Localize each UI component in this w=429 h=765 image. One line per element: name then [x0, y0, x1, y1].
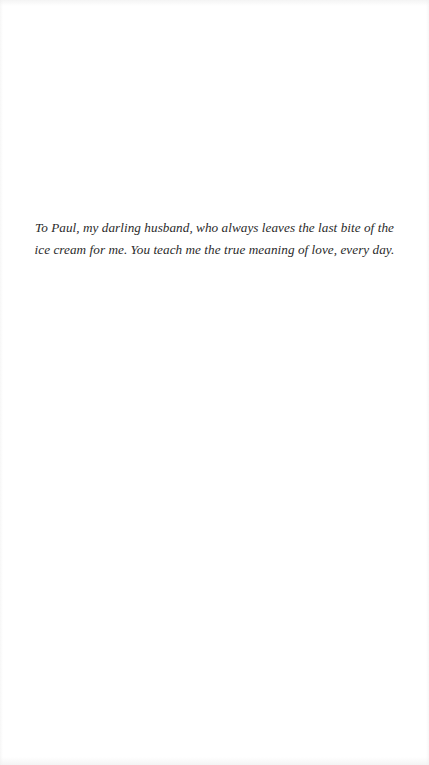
dedication-text: To Paul, my darling husband, who always … — [0, 217, 429, 261]
scan-edge-top — [0, 0, 429, 6]
scan-edge-bottom — [0, 757, 429, 765]
dedication-line-1: To Paul, my darling husband, who always … — [0, 217, 429, 239]
book-page: To Paul, my darling husband, who always … — [0, 0, 429, 765]
scan-edge-left — [0, 0, 3, 765]
dedication-line-2: ice cream for me. You teach me the true … — [0, 239, 429, 261]
